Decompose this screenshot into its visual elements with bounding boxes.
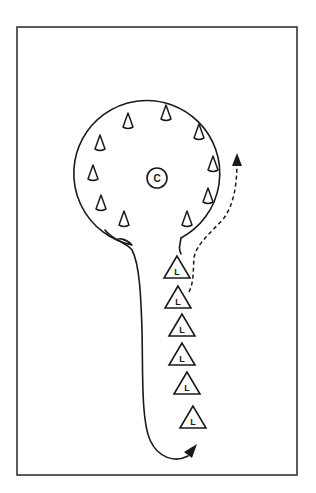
drill-diagram: C L L L L L xyxy=(0,0,316,493)
line-cones: L L L L L L xyxy=(164,256,206,428)
line-cone-5: L xyxy=(174,372,200,394)
svg-text:L: L xyxy=(175,297,181,307)
line-cone-1: L xyxy=(164,256,190,278)
cone-icon xyxy=(161,105,171,121)
line-cone-2: L xyxy=(165,286,191,308)
cone-icon xyxy=(88,165,98,181)
stem-right-line xyxy=(180,238,181,254)
cone-icon xyxy=(208,156,218,172)
line-cone-3: L xyxy=(169,314,195,336)
cone-icon xyxy=(123,113,133,129)
return-arrow-head-icon xyxy=(184,444,197,458)
cone-icon xyxy=(182,211,192,227)
line-cone-4: L xyxy=(169,343,195,365)
cone-icon xyxy=(119,211,129,227)
center-marker: C xyxy=(147,168,167,188)
circle-cones xyxy=(88,105,218,227)
svg-text:L: L xyxy=(174,267,180,277)
svg-text:L: L xyxy=(184,383,190,393)
cone-icon xyxy=(96,195,106,211)
cone-icon xyxy=(203,188,213,204)
svg-text:L: L xyxy=(179,325,185,335)
center-marker-label: C xyxy=(153,173,160,184)
svg-text:L: L xyxy=(179,354,185,364)
line-cone-6: L xyxy=(180,406,206,428)
svg-text:L: L xyxy=(190,417,196,427)
run-arrow-head-icon xyxy=(232,153,242,166)
cone-icon xyxy=(95,135,105,151)
field-frame xyxy=(17,27,297,475)
